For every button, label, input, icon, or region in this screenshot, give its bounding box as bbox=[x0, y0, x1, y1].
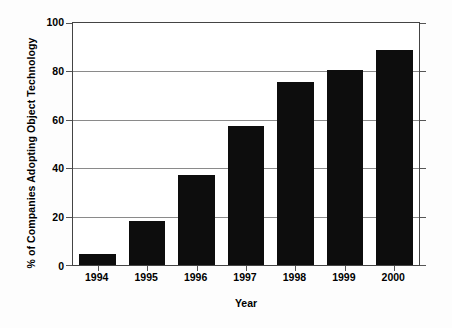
y-axis-tick-mark bbox=[66, 71, 72, 72]
x-axis-tick-label: 1999 bbox=[332, 270, 355, 284]
y-axis-tick-mark bbox=[66, 168, 72, 169]
gridline bbox=[73, 120, 419, 121]
bar bbox=[327, 70, 364, 265]
y-axis-tick-mark bbox=[420, 168, 426, 169]
y-axis-tick-mark bbox=[66, 265, 72, 266]
y-axis-tick-mark bbox=[420, 265, 426, 266]
y-axis-tick-label: 0 bbox=[30, 261, 64, 272]
plot-area bbox=[72, 22, 420, 266]
x-axis-tick-label: 2000 bbox=[382, 270, 405, 284]
bar bbox=[277, 82, 314, 265]
x-axis-tick-label: 1997 bbox=[233, 270, 256, 284]
x-axis-tick-label: 1996 bbox=[184, 270, 207, 284]
chart-screenshot: % of Companies Adopting Object Technolog… bbox=[0, 0, 452, 328]
y-axis-tick-label: 60 bbox=[30, 114, 64, 125]
y-axis-tick-label: 100 bbox=[30, 17, 64, 28]
y-axis-tick-mark bbox=[420, 71, 426, 72]
x-axis-tick-label: 1998 bbox=[283, 270, 306, 284]
y-axis-tick-labels: 020406080100 bbox=[28, 22, 64, 266]
y-axis-tick-mark bbox=[420, 217, 426, 218]
bar bbox=[129, 221, 166, 265]
x-axis-tick-label: 1994 bbox=[85, 270, 108, 284]
y-axis-tick-label: 40 bbox=[30, 163, 64, 174]
gridline bbox=[73, 71, 419, 72]
y-axis-tick-label: 80 bbox=[30, 66, 64, 77]
bar bbox=[178, 175, 215, 265]
bar bbox=[79, 254, 116, 265]
y-axis-tick-mark bbox=[66, 23, 72, 24]
y-axis-tick-mark bbox=[420, 23, 426, 24]
x-axis-tick-labels: 1994199519961997199819992000 bbox=[72, 270, 420, 286]
y-axis-tick-label: 20 bbox=[30, 212, 64, 223]
x-axis-title: Year bbox=[72, 296, 420, 310]
y-axis-tick-mark bbox=[66, 120, 72, 121]
y-axis-tick-mark bbox=[66, 217, 72, 218]
bar bbox=[228, 126, 265, 265]
x-axis-tick-label: 1995 bbox=[134, 270, 157, 284]
bar bbox=[376, 50, 413, 265]
y-axis-tick-mark bbox=[420, 120, 426, 121]
